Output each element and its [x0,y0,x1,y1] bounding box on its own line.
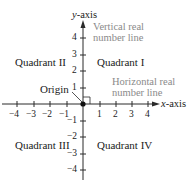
y-tick-label: 3 [72,50,77,60]
x-tick-label: 3 [129,110,134,120]
x-tick-label: 4 [145,110,150,120]
y-axis-line [81,20,86,180]
horizontal-number-line-note: Horizontal real number line [112,76,175,98]
y-tick-label: −4 [67,165,77,175]
y-tick-label: 4 [72,33,77,43]
y-tick-label: 2 [72,66,77,76]
origin-point [80,101,85,106]
quadrant-iv-label: Quadrant IV [97,140,152,151]
x-tick-label: −1 [59,110,69,120]
x-tick-label: 1 [97,110,102,120]
y-tick-label: 1 [72,83,77,93]
origin-label: Origin [40,84,69,95]
quadrant-ii-label: Quadrant II [15,57,66,68]
vertical-number-line-note: Vertical real number line [93,21,144,43]
x-axis-arrow-icon [152,102,160,107]
origin-leader-line [72,92,82,102]
quadrant-i-label: Quadrant I [97,57,144,68]
y-axis-label: y-axis [72,10,97,21]
x-tick-label: −4 [9,110,19,120]
y-tick-label: −2 [67,132,77,142]
x-tick-label: −2 [42,110,52,120]
x-tick-label: 2 [113,110,118,120]
x-tick-label: −3 [26,110,36,120]
x-axis-label: x-axis [161,99,186,110]
y-axis-arrow-icon [81,20,86,28]
y-tick-label: −3 [67,149,77,159]
quadrant-iii-label: Quadrant III [15,140,70,151]
